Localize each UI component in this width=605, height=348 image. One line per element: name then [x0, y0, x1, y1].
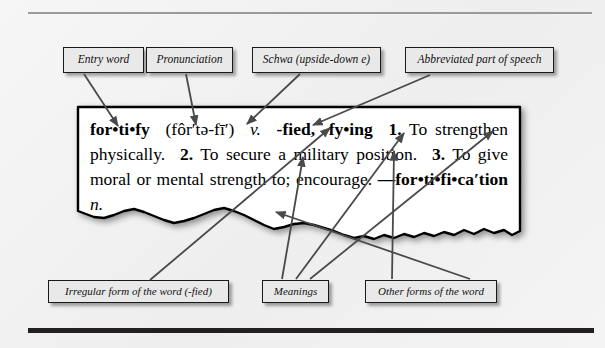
callout-pronunciation-label: Pronunciation — [156, 54, 222, 66]
callout-other-forms-label: Other forms of the word — [378, 286, 484, 297]
sense-3-number: 3. — [432, 144, 445, 164]
callout-irregular-form-label: Irregular form of the word (-fied) — [65, 286, 212, 297]
entry-headword: for•ti•fy — [90, 119, 150, 139]
callout-part-of-speech[interactable]: Abbreviated part of speech — [405, 47, 554, 73]
top-divider-rule — [28, 12, 592, 14]
bottom-divider-rule — [28, 328, 594, 333]
callout-part-of-speech-label: Abbreviated part of speech — [418, 54, 542, 66]
callout-meanings-label: Meanings — [274, 286, 317, 297]
callout-schwa[interactable]: Schwa (upside-down e) — [252, 47, 381, 73]
entry-part-of-speech: v. — [250, 119, 261, 139]
sense-1-number: 1. — [388, 119, 401, 139]
callout-entry-word[interactable]: Entry word — [63, 47, 144, 73]
figure-page: Entry word Pronunciation Schwa (upside-d… — [0, 0, 605, 348]
sense-2-text: To secure a military position. — [200, 144, 417, 164]
callout-irregular-form[interactable]: Irregular form of the word (-fied) — [48, 280, 229, 303]
sense-2-number: 2. — [180, 144, 193, 164]
entry-derived-form: —for•ti•fi•ca′tion — [378, 169, 508, 189]
callout-schwa-label: Schwa (upside-down e) — [263, 54, 370, 66]
dictionary-entry-text: for•ti•fy (fôr′tə-fī′) v. -fied, -fy•ing… — [90, 117, 508, 217]
entry-pronunciation: (fôr′tə-fī′) — [166, 119, 235, 139]
callout-meanings[interactable]: Meanings — [262, 280, 329, 303]
callout-entry-word-label: Entry word — [78, 54, 130, 66]
callout-pronunciation[interactable]: Pronunciation — [146, 47, 233, 73]
entry-derived-part-of-speech: n. — [90, 194, 103, 214]
callout-other-forms[interactable]: Other forms of the word — [365, 280, 497, 303]
dictionary-entry-card: for•ti•fy (fôr′tə-fī′) v. -fied, -fy•ing… — [76, 105, 522, 257]
entry-inflections: -fied, -fy•ing — [277, 119, 373, 139]
